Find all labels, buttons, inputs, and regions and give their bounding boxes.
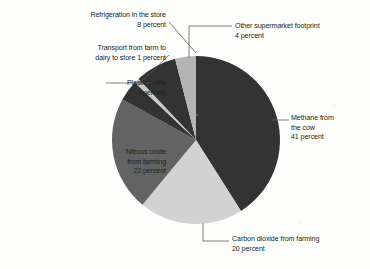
leader-line-other <box>189 26 232 58</box>
leader-line-refrigeration <box>169 22 196 53</box>
slice-label-refrigeration-in-the-store: Refrigeration in the store 8 percent <box>24 11 166 30</box>
slice-label-nitrous-oxide-from-farming: Nitrous oxide from farming 22 percent <box>22 148 166 177</box>
slice-label-methane-from-the-cow: Methane from the cow 41 percent <box>291 114 367 143</box>
slice-label-other-supermarket-footprint: Other supermarket footprint 4 percent <box>235 22 365 41</box>
slice-label-carbon-dioxide-from-farming: Carbon dioxide from farming 20 percent <box>232 235 368 254</box>
slice-label-transport-from-farm-to-dairy-to-store: Transport from farm to dairy to store 1 … <box>12 44 166 63</box>
slice-label-plastic-bottle: Plastic bottle 4 percent <box>34 79 166 98</box>
scan-speck <box>196 114 198 116</box>
leader-line-carbon <box>203 223 229 241</box>
pie-chart-figure: Refrigeration in the store 8 percent Tra… <box>0 0 370 269</box>
